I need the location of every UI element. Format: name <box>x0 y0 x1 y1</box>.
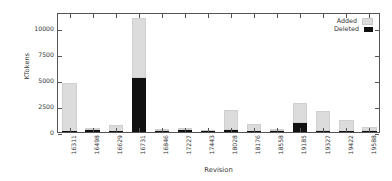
bar-group <box>316 12 330 132</box>
legend: AddedDeleted <box>332 17 375 33</box>
x-tick-mark <box>254 128 255 132</box>
x-tick-mark <box>346 128 347 132</box>
bar-group <box>155 12 169 132</box>
x-tick-mark <box>93 14 94 18</box>
x-axis-tick-labels: 1631116498166291673116846172271744318028… <box>57 134 380 168</box>
x-tick-label: 16846 <box>163 135 169 154</box>
legend-item: Added <box>337 18 373 25</box>
y-tick-mark <box>375 82 379 83</box>
y-tick-label: 5000 <box>38 78 54 84</box>
bar-segment-added <box>224 110 238 130</box>
x-tick-mark <box>116 128 117 132</box>
x-tick-mark <box>369 128 370 132</box>
legend-item: Deleted <box>334 26 373 32</box>
x-tick-label: 19327 <box>325 135 331 154</box>
bar-group <box>224 12 238 132</box>
x-tick-mark <box>323 14 324 18</box>
x-tick-mark <box>277 128 278 132</box>
x-tick-mark <box>139 14 140 18</box>
y-tick-mark <box>375 56 379 57</box>
x-tick-label: 16311 <box>71 135 77 154</box>
x-tick-label: 18028 <box>232 135 238 154</box>
bar-group <box>132 12 146 132</box>
x-tick-mark <box>162 14 163 18</box>
legend-swatch-deleted <box>364 27 373 32</box>
x-tick-mark <box>70 128 71 132</box>
bar-group <box>109 12 123 132</box>
legend-swatch-added <box>362 18 373 25</box>
bar-group <box>247 12 261 132</box>
bar-group <box>85 12 99 132</box>
bar-group <box>293 12 307 132</box>
x-tick-mark <box>231 14 232 18</box>
y-tick-mark <box>58 56 62 57</box>
plot-area: AddedDeleted <box>57 13 380 133</box>
x-tick-mark <box>162 128 163 132</box>
y-tick-mark <box>58 82 62 83</box>
x-tick-mark <box>185 128 186 132</box>
x-tick-label: 19588 <box>371 135 377 154</box>
x-tick-label: 17443 <box>209 135 215 154</box>
stacked-bar-chart: KTokens 025005000750010000 AddedDeleted … <box>0 0 392 181</box>
x-tick-label: 16731 <box>140 135 146 154</box>
x-tick-mark <box>231 128 232 132</box>
bar-group <box>270 12 284 132</box>
bar-group <box>178 12 192 132</box>
x-tick-mark <box>70 14 71 18</box>
bar-group <box>62 12 76 132</box>
x-tick-label: 19422 <box>348 135 354 154</box>
x-tick-label: 18176 <box>255 135 261 154</box>
x-tick-mark <box>116 14 117 18</box>
x-tick-mark <box>93 128 94 132</box>
x-tick-mark <box>208 14 209 18</box>
y-tick-mark <box>375 108 379 109</box>
x-tick-mark <box>254 14 255 18</box>
x-tick-mark <box>323 128 324 132</box>
y-axis-tick-labels: 025005000750010000 <box>0 0 54 181</box>
y-tick-mark <box>58 30 62 31</box>
x-tick-mark <box>277 14 278 18</box>
bar-group <box>201 12 215 132</box>
y-tick-label: 10000 <box>34 26 54 32</box>
x-tick-mark <box>139 128 140 132</box>
x-tick-mark <box>185 14 186 18</box>
x-tick-mark <box>300 128 301 132</box>
x-tick-label: 16629 <box>117 135 123 154</box>
legend-label: Deleted <box>334 26 359 32</box>
y-tick-label: 2500 <box>38 104 54 110</box>
y-tick-label: 7500 <box>38 52 54 58</box>
x-tick-label: 18558 <box>278 135 284 154</box>
x-tick-mark <box>208 128 209 132</box>
bar-segment-added <box>62 83 76 132</box>
bar-segment-deleted <box>132 78 146 132</box>
legend-label: Added <box>337 18 357 24</box>
x-tick-label: 16498 <box>94 135 100 154</box>
bar-segment-added <box>132 18 146 77</box>
x-axis-label: Revision <box>57 166 380 174</box>
y-tick-label: 0 <box>50 130 54 136</box>
bar-segment-added <box>293 103 307 124</box>
x-tick-label: 19185 <box>301 135 307 154</box>
x-tick-label: 17227 <box>186 135 192 154</box>
y-tick-mark <box>58 108 62 109</box>
y-tick-mark <box>375 30 379 31</box>
x-tick-mark <box>300 14 301 18</box>
